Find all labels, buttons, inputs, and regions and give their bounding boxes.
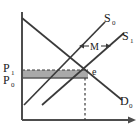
- demand-curve-D0: [22, 18, 122, 100]
- supply-demand-chart: M S 0 S 1 D 0 P 1 P 0 e: [0, 0, 140, 133]
- price-label-P1-subscript: 1: [11, 69, 15, 77]
- curve-label-S0: S 0: [104, 11, 116, 27]
- chart-axes: [22, 12, 136, 124]
- curve-label-D0-text: D: [120, 94, 129, 108]
- price-label-P0-subscript: 0: [11, 81, 15, 89]
- curve-label-S1: S 1: [122, 29, 134, 45]
- curve-label-D0-subscript: 0: [129, 102, 133, 110]
- curve-label-S1-text: S: [122, 29, 129, 43]
- supply-curve-S0: [24, 22, 105, 105]
- curve-label-D0: D 0: [120, 94, 133, 110]
- m-label: M: [90, 41, 99, 52]
- price-label-P0-text: P: [3, 73, 10, 87]
- quantity-axis-arrow-icon: [128, 117, 136, 124]
- curve-label-S0-subscript: 0: [112, 19, 116, 27]
- curve-label-S1-subscript: 1: [130, 37, 134, 45]
- equilibrium-point-label: e: [92, 66, 97, 77]
- chart-canvas: M S 0 S 1 D 0 P 1 P 0 e: [0, 0, 140, 133]
- curve-label-S0-text: S: [104, 11, 111, 25]
